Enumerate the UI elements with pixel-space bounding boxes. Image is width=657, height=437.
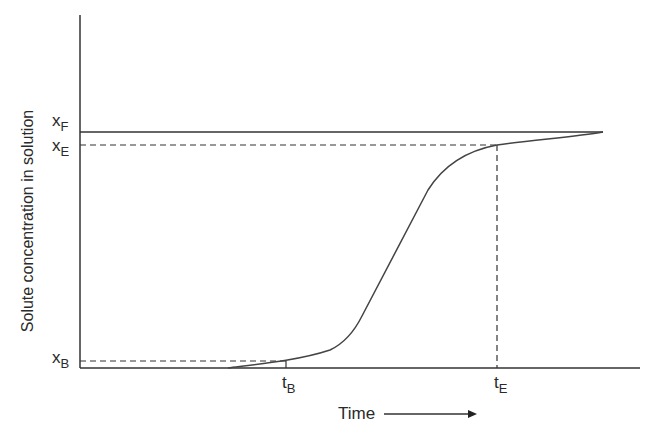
time-arrow-head-icon (468, 410, 477, 418)
te-label: tE (494, 374, 507, 395)
breakthrough-curve (228, 132, 603, 368)
x-axis-label: Time (338, 404, 375, 424)
tb-label: tB (282, 374, 295, 395)
breakthrough-chart (0, 0, 657, 437)
y-axis-label: Solute concentration in solution (19, 110, 37, 332)
xe-label: xE (52, 137, 69, 158)
xb-label: xB (52, 349, 69, 370)
xf-label: xF (52, 112, 68, 133)
